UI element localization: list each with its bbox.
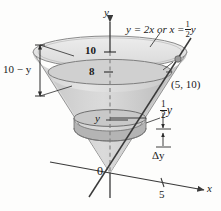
height-above-label: 10 − y	[3, 64, 31, 75]
cone-volume-diagram: y x 0 10 8 5 y 10 − y (5, 10) Δy 1 2 y y…	[0, 0, 221, 211]
origin-label: 0	[97, 165, 103, 177]
x-axis	[110, 173, 204, 190]
y-tick-label-10: 10	[85, 45, 96, 56]
slice-level-label: y	[95, 113, 100, 124]
slice-radius-variable: y	[167, 103, 172, 117]
y-axis-label: y	[104, 7, 109, 18]
height-above-text: 10 − y	[3, 63, 31, 75]
x-axis-label: x	[207, 183, 212, 194]
slant-line-equation: y = 2x or x = 1 2 y	[126, 20, 196, 39]
point-marker-5-10	[175, 56, 181, 62]
point-label-5-10: (5, 10)	[171, 79, 200, 90]
equation-trailing-variable: y	[191, 23, 196, 35]
x-tick-label-5: 5	[159, 189, 165, 200]
delta-y-label: Δy	[152, 150, 165, 161]
slice-radius-label: 1 2 y	[160, 100, 172, 121]
half-fraction: 1 2	[160, 100, 167, 121]
y-tick-label-8: 8	[89, 66, 95, 77]
equation-text: y = 2x or x =	[126, 23, 185, 35]
